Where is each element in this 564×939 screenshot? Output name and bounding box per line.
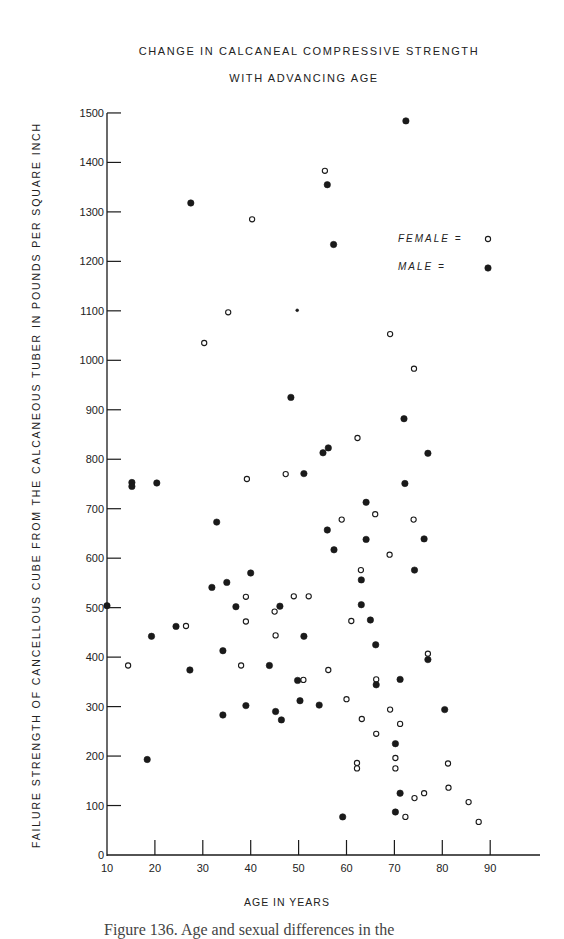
female-data-point xyxy=(306,594,311,599)
male-data-point xyxy=(392,741,398,747)
male-data-point xyxy=(272,708,278,714)
female-data-point xyxy=(466,800,471,805)
male-data-point xyxy=(324,527,330,533)
female-data-point xyxy=(425,651,430,656)
female-data-point xyxy=(445,761,450,766)
y-tick-label: 1400 xyxy=(80,156,104,168)
female-data-point xyxy=(243,619,248,624)
male-data-point xyxy=(188,200,194,206)
y-tick-label: 200 xyxy=(86,750,104,762)
female-data-point xyxy=(349,618,354,623)
female-data-point xyxy=(322,168,327,173)
female-data-point xyxy=(411,366,416,371)
male-data-point xyxy=(330,241,336,247)
male-data-point xyxy=(173,623,179,629)
female-data-point xyxy=(387,552,392,557)
y-tick-label: 0 xyxy=(98,849,104,861)
y-tick-label: 400 xyxy=(86,651,104,663)
male-data-point xyxy=(243,702,249,708)
male-data-point xyxy=(278,717,284,723)
y-tick-label: 1300 xyxy=(80,206,104,218)
female-data-point xyxy=(393,755,398,760)
male-data-point xyxy=(367,617,373,623)
female-data-point xyxy=(422,791,427,796)
male-data-point xyxy=(401,416,407,422)
legend-female-label: FEMALE = xyxy=(398,233,463,244)
male-data-point xyxy=(363,499,369,505)
male-data-point xyxy=(296,309,299,312)
female-data-point xyxy=(239,663,244,668)
female-data-point xyxy=(398,721,403,726)
male-data-point xyxy=(392,809,398,815)
male-data-point xyxy=(297,698,303,704)
female-data-point xyxy=(446,785,451,790)
female-data-point xyxy=(358,568,363,573)
male-data-point xyxy=(233,604,239,610)
female-data-point xyxy=(354,760,359,765)
female-data-point xyxy=(291,594,296,599)
male-data-point xyxy=(316,702,322,708)
male-data-point xyxy=(187,667,193,673)
male-data-point xyxy=(421,536,427,542)
legend-filled-circle-icon xyxy=(485,265,491,271)
male-data-point xyxy=(358,577,364,583)
x-tick-label: 20 xyxy=(149,862,161,874)
male-data-point xyxy=(397,790,403,796)
male-data-point xyxy=(144,756,150,762)
male-data-point xyxy=(402,480,408,486)
legend-male-label: MALE = xyxy=(398,261,446,272)
figure-caption: Figure 136. Age and sexual differences i… xyxy=(104,921,394,939)
x-axis-label: AGE IN YEARS xyxy=(244,896,330,908)
male-data-point xyxy=(403,118,409,124)
female-data-point xyxy=(183,623,188,628)
male-data-point xyxy=(301,633,307,639)
x-tick-label: 50 xyxy=(292,862,304,874)
female-data-point xyxy=(326,667,331,672)
male-data-point xyxy=(325,445,331,451)
male-data-point xyxy=(220,648,226,654)
x-tick-label: 40 xyxy=(245,862,257,874)
female-data-point xyxy=(412,796,417,801)
male-data-point xyxy=(154,480,160,486)
female-data-point xyxy=(374,731,379,736)
male-data-point xyxy=(358,602,364,608)
male-data-point xyxy=(363,536,369,542)
female-data-point xyxy=(403,814,408,819)
x-tick-label: 80 xyxy=(436,862,448,874)
x-tick-label: 70 xyxy=(388,862,400,874)
male-data-point xyxy=(220,712,226,718)
female-data-point xyxy=(126,663,131,668)
y-tick-label: 1500 xyxy=(80,107,104,119)
male-data-point xyxy=(373,642,379,648)
female-data-point xyxy=(244,476,249,481)
female-data-point xyxy=(339,517,344,522)
male-data-point xyxy=(411,567,417,573)
male-data-point xyxy=(224,579,230,585)
x-tick-label: 90 xyxy=(484,862,496,874)
female-data-point xyxy=(374,677,379,682)
y-tick-label: 800 xyxy=(86,453,104,465)
female-data-point xyxy=(344,697,349,702)
male-data-point xyxy=(442,706,448,712)
female-data-point xyxy=(202,340,207,345)
female-data-point xyxy=(283,472,288,477)
y-tick-label: 500 xyxy=(86,602,104,614)
y-tick-label: 700 xyxy=(86,503,104,515)
male-data-point xyxy=(209,584,215,590)
male-data-point xyxy=(148,633,154,639)
y-tick-label: 300 xyxy=(86,701,104,713)
male-data-point xyxy=(331,547,337,553)
female-data-point xyxy=(226,310,231,315)
y-tick-label: 1100 xyxy=(80,305,104,317)
female-data-point xyxy=(301,677,306,682)
male-data-point xyxy=(266,662,272,668)
male-data-point xyxy=(301,470,307,476)
female-data-point xyxy=(359,716,364,721)
female-data-point xyxy=(393,766,398,771)
male-data-point xyxy=(294,677,300,683)
male-data-point xyxy=(397,676,403,682)
female-data-point xyxy=(243,594,248,599)
male-data-point xyxy=(214,519,220,525)
